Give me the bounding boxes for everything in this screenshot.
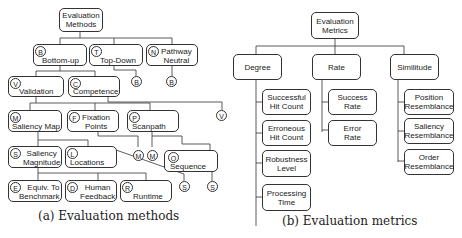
ref-b-icon: B — [166, 76, 177, 87]
node-sequence: O Sequence — [164, 150, 218, 172]
ref-b-icon: B — [131, 76, 142, 87]
caption-b: (b) Evaluation metrics — [282, 214, 417, 228]
column-degree: Degree — [233, 54, 282, 80]
metric-successful-hit-count: Successful Hit Count — [262, 89, 311, 115]
node-top-down: T Top-Down — [89, 44, 143, 66]
root-evaluation-metrics: Evaluation Metrics — [311, 12, 359, 39]
caption-a: (a) Evaluation methods — [38, 209, 179, 223]
metric-processing-time: Processing Time — [262, 184, 311, 211]
label-pathway-neutral: Pathway Neutral — [161, 47, 192, 65]
label-locations: Locations — [70, 158, 104, 167]
label-runtime: Runtime — [133, 192, 163, 201]
tag-s-icon: S — [10, 148, 21, 159]
column-similitude: Similitude — [390, 54, 439, 80]
node-validation: V Validation — [8, 76, 64, 97]
node-bottom-up: B Bottom-up — [33, 44, 87, 66]
node-competence: C Competence — [68, 76, 120, 97]
metric-erroneous-hit-count: Erroneous Hit Count — [262, 120, 311, 146]
label-saliency-magnitude: Saliency Magnitude — [23, 149, 60, 167]
metric-order-resemblance: Order Resemblance — [404, 149, 454, 175]
metric-error-rate: Error Rate — [328, 120, 377, 146]
node-saliency-magnitude: S Saliency Magnitude — [8, 146, 62, 168]
metric-success-rate: Success Rate — [328, 89, 377, 115]
tag-r-icon: R — [122, 182, 133, 193]
label-scanpath: Scanpath — [132, 122, 166, 131]
node-saliency-map: M Saliency Map — [8, 110, 62, 132]
label-sequence: Sequence — [170, 162, 206, 171]
node-scanpath: P Scanpath — [127, 110, 179, 132]
node-fixation-points: F Fixation Points — [67, 110, 119, 132]
node-locations: L Locations — [65, 146, 117, 168]
ref-s-icon: S — [207, 181, 218, 192]
node-runtime: R Runtime — [120, 180, 172, 202]
label-human-feedback: Human Feedback — [80, 183, 115, 201]
metric-saliency-resemblance: Saliency Resemblance — [404, 118, 454, 144]
root-evaluation-methods: Evaluation Methods — [59, 8, 103, 32]
label-top-down: Top-Down — [100, 56, 136, 65]
node-pathway-neutral: N Pathway Neutral — [146, 44, 198, 66]
label-equiv-benchmark: Equiv. To Benchmark — [19, 183, 59, 201]
metric-position-resemblance: Position Resemblance — [404, 89, 454, 115]
ref-m-icon: M — [147, 150, 158, 161]
ref-v-icon: V — [216, 110, 227, 121]
tag-n-icon: N — [148, 46, 159, 57]
metric-robustness-level: Robustness Level — [262, 150, 311, 177]
label-fixation-points: Fixation Points — [82, 113, 110, 131]
tag-f-icon: F — [69, 112, 80, 123]
label-competence: Competence — [73, 87, 118, 96]
ref-s-icon: S — [179, 181, 190, 192]
ref-m-icon: M — [133, 150, 144, 161]
label-bottom-up: Bottom-up — [42, 56, 79, 65]
node-human-feedback: D Human Feedback — [65, 180, 117, 202]
column-rate: Rate — [312, 54, 361, 80]
tag-d-icon: D — [67, 182, 78, 193]
node-equiv-benchmark: E Equiv. To Benchmark — [8, 180, 62, 202]
label-saliency-map: Saliency Map — [12, 122, 60, 131]
label-validation: Validation — [19, 87, 54, 96]
